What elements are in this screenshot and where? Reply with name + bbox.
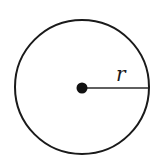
center-point: [77, 83, 88, 94]
circle-diagram: r: [0, 0, 161, 156]
radius-label: r: [116, 62, 127, 86]
